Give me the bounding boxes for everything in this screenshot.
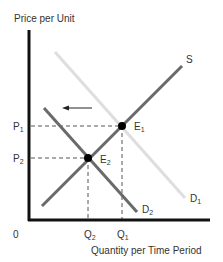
e2-label: E2: [100, 154, 111, 166]
equilibrium-point-e2: [84, 154, 92, 162]
x-axis-label: Quantity per Time Period: [91, 245, 202, 256]
supply-demand-diagram: Price per Unit S D1 D2 E1 E2 P1 P2 0 Q2 …: [0, 0, 223, 262]
equilibrium-point-e1: [118, 122, 126, 130]
p1-label: P1: [13, 121, 24, 133]
p2-label: P2: [13, 153, 24, 165]
y-axis-label: Price per Unit: [14, 13, 75, 24]
q2-label: Q2: [84, 229, 96, 241]
e1-label: E1: [134, 121, 145, 133]
supply-label: S: [186, 54, 193, 65]
origin-label: 0: [13, 229, 19, 240]
q1-label: Q1: [117, 229, 129, 241]
d2-label: D2: [142, 204, 153, 216]
arrow-left-icon: [62, 106, 69, 111]
d1-label: D1: [190, 193, 201, 205]
